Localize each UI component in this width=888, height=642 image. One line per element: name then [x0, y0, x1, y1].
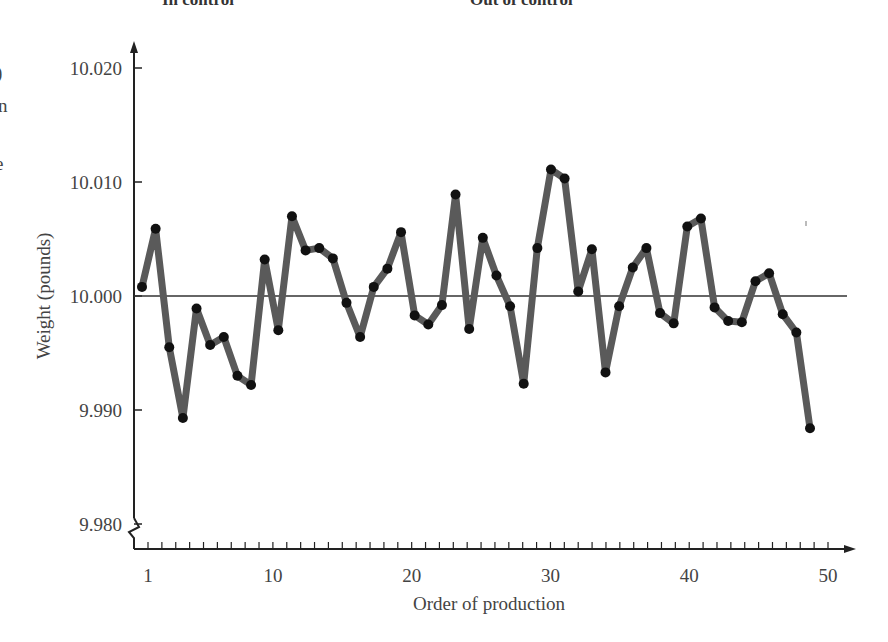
data-point — [669, 318, 679, 328]
edge-text-fragment: ) — [0, 62, 2, 84]
data-point — [628, 263, 638, 273]
data-point — [737, 317, 747, 327]
data-point — [764, 268, 774, 278]
data-point — [287, 211, 297, 221]
x-tick-labels: 11020304050 — [143, 565, 837, 586]
data-point — [587, 244, 597, 254]
data-point — [791, 327, 801, 337]
data-point — [491, 270, 501, 280]
data-point — [410, 310, 420, 320]
data-point — [601, 367, 611, 377]
header-out-of-control-label: Out of control — [470, 0, 573, 9]
data-point — [260, 255, 270, 265]
x-tick-label: 1 — [143, 565, 153, 586]
data-point — [341, 298, 351, 308]
x-tick-label: 40 — [680, 565, 699, 586]
data-point — [382, 264, 392, 274]
data-point — [532, 243, 542, 253]
control-chart: In control Out of control ) n e 11020304… — [0, 0, 888, 642]
x-tick-label: 20 — [402, 565, 421, 586]
scan-artifact — [805, 221, 807, 226]
data-point — [178, 413, 188, 423]
x-tick-label: 30 — [541, 565, 560, 586]
data-point — [232, 371, 242, 381]
data-point — [560, 174, 570, 184]
data-point — [451, 190, 461, 200]
x-axis-title: Order of production — [413, 593, 565, 614]
y-tick-labels: 10.02010.01010.0009.9909.980 — [70, 58, 122, 535]
data-point — [614, 301, 624, 311]
edge-text-fragment: n — [0, 95, 8, 116]
edge-text-fragment: e — [0, 153, 3, 174]
data-point — [778, 309, 788, 319]
data-point — [710, 302, 720, 312]
x-tick-label: 50 — [819, 565, 838, 586]
data-point — [246, 380, 256, 390]
data-point — [205, 340, 215, 350]
data-point — [464, 324, 474, 334]
x-ticks — [148, 542, 828, 549]
data-point — [396, 227, 406, 237]
y-axis-title: Weight (pounds) — [33, 233, 55, 360]
data-point — [314, 243, 324, 253]
x-axis-arrow-icon — [844, 545, 856, 553]
data-point — [369, 282, 379, 292]
y-tick-label: 9.990 — [79, 400, 122, 421]
y-tick-label: 9.980 — [79, 514, 122, 535]
y-tick-label: 10.010 — [70, 172, 122, 193]
data-point — [641, 243, 651, 253]
data-point — [573, 286, 583, 296]
data-point — [682, 221, 692, 231]
data-point — [655, 308, 665, 318]
data-point — [505, 301, 515, 311]
y-tick-label: 10.000 — [70, 286, 122, 307]
data-point — [164, 342, 174, 352]
y-axis-break-icon — [129, 518, 139, 549]
data-point — [750, 276, 760, 286]
data-point — [519, 379, 529, 389]
data-point — [696, 213, 706, 223]
series-line — [142, 170, 810, 429]
data-point — [151, 224, 161, 234]
data-point — [273, 325, 283, 335]
data-point — [301, 245, 311, 255]
x-tick-label: 10 — [263, 565, 282, 586]
data-point — [355, 332, 365, 342]
header-in-control-label: In control — [162, 0, 234, 9]
data-point — [478, 233, 488, 243]
y-axis-arrow-icon — [130, 41, 138, 53]
y-tick-label: 10.020 — [70, 58, 122, 79]
data-point — [546, 164, 556, 174]
data-point — [723, 316, 733, 326]
data-point — [437, 300, 447, 310]
data-point — [137, 282, 147, 292]
data-point — [328, 253, 338, 263]
data-point — [805, 423, 815, 433]
data-point — [423, 320, 433, 330]
data-point — [219, 332, 229, 342]
data-point — [192, 304, 202, 314]
